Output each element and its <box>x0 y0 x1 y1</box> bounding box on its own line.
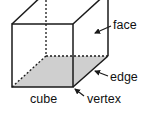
cube-diagram: face edge vertex cube <box>0 0 151 123</box>
edge-arrow-icon <box>95 71 108 76</box>
edge-top-left-diagonal <box>12 0 46 24</box>
shaded-bottom-face <box>12 56 108 87</box>
cube-label: cube <box>30 92 57 106</box>
face-label: face <box>113 18 137 32</box>
vertex-arrow-icon <box>75 89 84 96</box>
vertex-label: vertex <box>87 92 122 106</box>
edge-label: edge <box>110 70 138 84</box>
edge-top-right-diagonal <box>73 0 108 24</box>
